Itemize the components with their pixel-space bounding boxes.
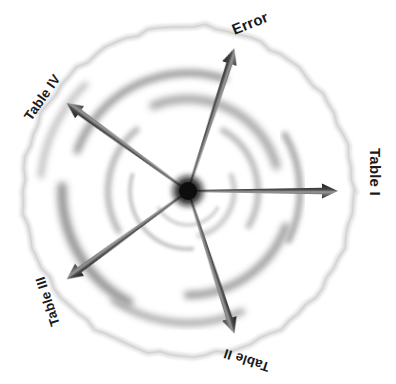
radial-diagram-canvas: Table ITable IITable IIITable IVError xyxy=(0,0,396,384)
spoke-arrow-table-3 xyxy=(62,185,192,285)
axis-label-table-3: Table III xyxy=(33,275,63,328)
hub-core xyxy=(179,182,197,200)
spoke-arrow-error xyxy=(181,46,241,193)
axis-label-table-1: Table I xyxy=(367,148,384,196)
axis-label-error: Error xyxy=(229,8,270,38)
spoke-arrow-table-1 xyxy=(188,184,338,199)
spiral-arc xyxy=(199,175,234,235)
center-hub xyxy=(173,176,203,206)
diagram-svg: Table ITable IITable IIITable IVError xyxy=(0,0,396,384)
spiral-arc xyxy=(159,208,218,225)
axis-label-table-2: Table II xyxy=(222,346,271,375)
spiral-arc xyxy=(62,187,129,303)
spiral-arc xyxy=(77,73,224,151)
